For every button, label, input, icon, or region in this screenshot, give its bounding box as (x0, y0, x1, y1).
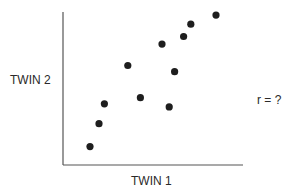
scatter-point (180, 33, 187, 40)
scatter-point (171, 68, 178, 75)
scatter-point (101, 100, 108, 107)
y-axis-label: TWIN 2 (10, 73, 51, 87)
correlation-annotation: r = ? (257, 93, 281, 107)
scatter-point (124, 62, 131, 69)
scatter-point (166, 103, 173, 110)
scatter-point (86, 143, 93, 150)
data-points (86, 12, 219, 151)
scatter-point (158, 41, 165, 48)
scatter-point (187, 21, 194, 28)
scatter-chart (0, 0, 299, 192)
scatter-point (212, 12, 219, 19)
scatter-point (95, 120, 102, 127)
scatter-point (137, 94, 144, 101)
x-axis-label: TWIN 1 (131, 174, 172, 188)
